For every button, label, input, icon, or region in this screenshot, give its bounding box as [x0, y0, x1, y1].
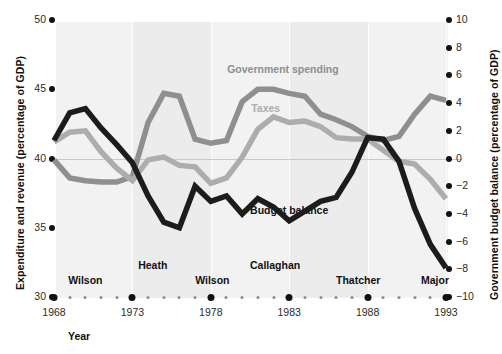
series-line-taxes — [54, 117, 446, 199]
series-lines — [0, 0, 502, 354]
series-line-budget-balance — [54, 109, 446, 268]
series-line-government-spending — [54, 89, 446, 182]
chart-root: Expenditure and revenue (percentage of G… — [0, 0, 502, 354]
